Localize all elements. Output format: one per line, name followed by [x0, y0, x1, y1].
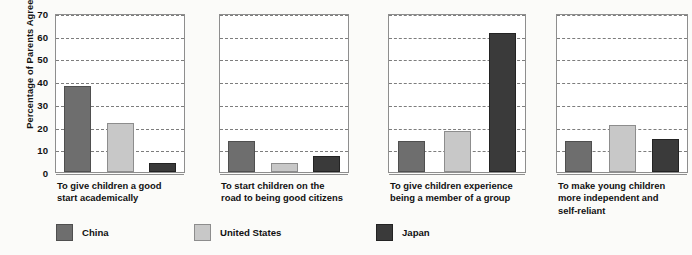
- category-label-line: road to being good citizens: [221, 192, 379, 204]
- legend-color-swatch: [376, 224, 393, 241]
- category-label-line: start academically: [57, 192, 215, 204]
- category-label: To give children experiencebeing a membe…: [390, 180, 556, 205]
- y-axis-tick-label: 20: [22, 122, 48, 133]
- category-label: To give children a goodstart academicall…: [57, 180, 215, 205]
- category-label-line: To give children a good: [57, 180, 215, 192]
- category-label-line: To give children experience: [390, 180, 556, 192]
- y-axis-tick-label: 60: [22, 31, 48, 42]
- chart-panel: [55, 14, 185, 173]
- bar: [489, 33, 516, 172]
- legend-label: China: [82, 227, 109, 238]
- axis-baseline: [220, 174, 348, 175]
- category-label-line: being a member of a group: [390, 192, 556, 204]
- category-label: To start children on theroad to being go…: [221, 180, 379, 205]
- y-axis-tick-label: 0: [22, 168, 48, 179]
- y-axis-tick-label: 10: [22, 145, 48, 156]
- bar-group: [389, 15, 525, 172]
- category-label-line: To start children on the: [221, 180, 379, 192]
- bar: [64, 86, 91, 172]
- category-label-line: To make young children: [558, 180, 692, 192]
- bar-chart-figure: Percentage of Parents Agreeing 010203040…: [0, 0, 692, 255]
- legend-item: United States: [194, 222, 281, 242]
- bar: [149, 163, 176, 172]
- bar: [609, 125, 636, 172]
- bar: [228, 141, 255, 172]
- y-axis-tick-label: 70: [22, 9, 48, 20]
- legend-label: Japan: [402, 227, 430, 238]
- bar: [444, 131, 471, 172]
- bar: [398, 141, 425, 172]
- bar-group: [56, 15, 184, 172]
- chart-panel: [556, 14, 688, 173]
- axis-baseline: [557, 174, 687, 175]
- chart-panel: [219, 14, 349, 173]
- legend-color-swatch: [194, 224, 211, 241]
- bar-group: [557, 15, 687, 172]
- bar: [313, 156, 340, 172]
- bar: [565, 141, 592, 172]
- chart-panel: [388, 14, 526, 173]
- bar: [271, 163, 298, 172]
- legend-label: United States: [220, 227, 281, 238]
- bar: [652, 139, 679, 172]
- axis-baseline: [389, 174, 525, 175]
- y-axis-tick-labels: 010203040506070: [22, 14, 48, 173]
- y-axis-tick-label: 30: [22, 99, 48, 110]
- category-label: To make young childrenmore independent a…: [558, 180, 692, 217]
- bar: [107, 123, 134, 172]
- category-label-line: more independent and: [558, 192, 692, 204]
- legend-color-swatch: [56, 224, 73, 241]
- legend-item: Japan: [376, 222, 430, 242]
- axis-baseline: [56, 174, 184, 175]
- legend-item: China: [56, 222, 109, 242]
- bar-group: [220, 15, 348, 172]
- y-axis-tick-label: 40: [22, 77, 48, 88]
- y-axis-tick-label: 50: [22, 54, 48, 65]
- category-label-line: self-reliant: [558, 205, 692, 217]
